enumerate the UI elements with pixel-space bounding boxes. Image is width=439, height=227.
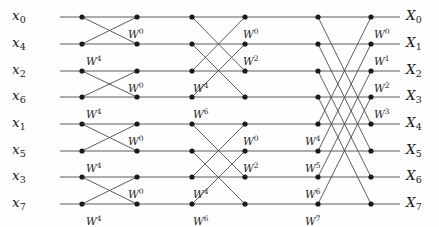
node-c5-r1 (368, 41, 373, 46)
node-c0-r6 (79, 174, 84, 179)
twiddle-symbol: W (128, 188, 139, 200)
twiddle-label-s3-w7: W7 (305, 215, 321, 226)
twiddle-label-s3-w6: W6 (305, 188, 321, 199)
twiddle-exponent: 0 (385, 27, 390, 36)
output-index: 2 (416, 68, 422, 79)
twiddle-exponent: 0 (139, 27, 144, 36)
twiddle-label-s3-w2: W2 (374, 82, 390, 93)
twiddle-symbol: W (243, 135, 254, 147)
node-c2-r2 (189, 68, 194, 73)
node-c5-r7 (368, 201, 373, 206)
twiddle-symbol: W (193, 215, 204, 227)
twiddle-exponent: 7 (316, 214, 321, 223)
input-index: 1 (20, 121, 26, 132)
input-index: 7 (20, 201, 26, 212)
output-label-x4: X4 (406, 116, 422, 131)
twiddle-label-s1-b2-w0: W0 (128, 82, 144, 93)
node-c3-r4 (242, 121, 247, 126)
twiddle-exponent: 6 (204, 214, 209, 223)
fft-butterfly-diagram: x0x4x2x6x1x5x3x7X0X1X2X3X4X5X6X7W0W4W0W4… (0, 0, 439, 227)
input-index: 2 (20, 68, 26, 79)
butterfly-cross-edges (82, 17, 371, 204)
node-c2-r3 (189, 94, 194, 99)
twiddle-symbol: W (86, 162, 97, 174)
node-c4-r6 (315, 174, 320, 179)
output-symbol: X (406, 34, 416, 50)
twiddle-label-s2-g1-w4: W4 (193, 82, 209, 93)
twiddle-label-s2-g1-w6: W6 (193, 108, 209, 119)
output-label-x6: X6 (406, 169, 422, 184)
twiddle-exponent: 0 (139, 134, 144, 143)
twiddle-symbol: W (193, 188, 204, 200)
twiddle-symbol: W (374, 108, 385, 120)
twiddle-label-s3-w4: W4 (305, 135, 321, 146)
node-c5-r2 (368, 68, 373, 73)
output-symbol: X (406, 194, 416, 210)
output-symbol: X (406, 114, 416, 130)
twiddle-label-s2-g2-w4: W4 (193, 188, 209, 199)
twiddle-exponent: 4 (204, 81, 209, 90)
input-index: 4 (20, 41, 26, 52)
output-label-x5: X5 (406, 143, 422, 158)
twiddle-label-s2-g2-w6: W6 (193, 215, 209, 226)
output-label-x7: X7 (406, 196, 422, 211)
twiddle-label-s3-w5: W5 (305, 162, 321, 173)
node-c2-r4 (189, 121, 194, 126)
twiddle-symbol: W (86, 215, 97, 227)
twiddle-label-s1-b3-w0: W0 (128, 135, 144, 146)
output-symbol: X (406, 7, 416, 23)
twiddle-exponent: 2 (254, 54, 259, 63)
node-c4-r1 (315, 41, 320, 46)
twiddle-label-s3-w0: W0 (374, 28, 390, 39)
node-c0-r1 (79, 41, 84, 46)
twiddle-label-s1-b1-w0: W0 (128, 28, 144, 39)
twiddle-exponent: 4 (204, 187, 209, 196)
node-c1-r2 (134, 68, 139, 73)
node-c1-r5 (134, 148, 139, 153)
input-symbol: x (12, 34, 20, 50)
input-symbol: x (12, 7, 20, 23)
twiddle-label-s2-g1-w0: W0 (243, 28, 259, 39)
twiddle-exponent: 4 (316, 134, 321, 143)
twiddle-exponent: 6 (316, 187, 321, 196)
twiddle-symbol: W (374, 82, 385, 94)
twiddle-symbol: W (305, 162, 316, 174)
node-c4-r2 (315, 68, 320, 73)
node-c1-r4 (134, 121, 139, 126)
node-c1-r3 (134, 94, 139, 99)
node-c3-r7 (242, 201, 247, 206)
node-c3-r5 (242, 148, 247, 153)
node-c5-r0 (368, 14, 373, 19)
twiddle-exponent: 4 (97, 107, 102, 116)
node-c2-r5 (189, 148, 194, 153)
node-c1-r1 (134, 41, 139, 46)
twiddle-exponent: 3 (385, 107, 390, 116)
twiddle-symbol: W (305, 215, 316, 227)
twiddle-label-s2-g2-w2: W2 (243, 162, 259, 173)
output-index: 4 (416, 121, 422, 132)
node-c3-r1 (242, 41, 247, 46)
twiddle-symbol: W (86, 55, 97, 67)
input-symbol: x (12, 141, 20, 157)
input-index: 0 (20, 14, 26, 25)
input-index: 5 (20, 148, 26, 159)
output-index: 5 (416, 148, 422, 159)
node-c5-r6 (368, 174, 373, 179)
node-c2-r6 (189, 174, 194, 179)
input-symbol: x (12, 61, 20, 77)
twiddle-symbol: W (193, 82, 204, 94)
output-index: 6 (416, 174, 422, 185)
twiddle-symbol: W (193, 108, 204, 120)
input-symbol: x (12, 87, 20, 103)
output-label-x1: X1 (406, 36, 422, 51)
twiddle-symbol: W (243, 28, 254, 40)
input-label-x7: x7 (12, 196, 26, 211)
twiddle-label-s1-b2-w4: W4 (86, 108, 102, 119)
twiddle-exponent: 4 (97, 214, 102, 223)
node-c2-r1 (189, 41, 194, 46)
graph-nodes (79, 14, 373, 206)
twiddle-symbol: W (305, 188, 316, 200)
node-c4-r7 (315, 201, 320, 206)
input-index: 6 (20, 94, 26, 105)
input-label-x2: x2 (12, 63, 26, 78)
